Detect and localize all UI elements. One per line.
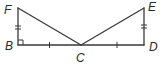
label-f: F [4, 4, 11, 16]
label-d: D [149, 41, 158, 53]
label-b: B [5, 40, 13, 52]
geometry-diagram: F B C D E [0, 0, 164, 69]
right-angle-marker-b [18, 40, 23, 45]
segment-ec [81, 8, 144, 45]
label-e: E [148, 1, 156, 13]
label-c: C [76, 52, 85, 64]
segment-fc [18, 8, 81, 45]
